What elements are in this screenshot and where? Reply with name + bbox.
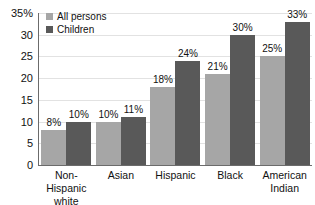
bar	[175, 61, 200, 165]
y-axis-tick-label: 35%	[11, 8, 33, 18]
bar-column: 21%	[205, 13, 230, 165]
bar-value-label: 10%	[69, 110, 89, 120]
bar-value-label: 25%	[262, 44, 282, 54]
x-axis-category-label: Non-Hispanicwhite	[39, 167, 94, 205]
bar-column: 30%	[230, 13, 255, 165]
bar-group: 25%33%	[257, 13, 312, 165]
y-axis-tick-label: 25	[21, 51, 33, 61]
bar-group: 21%30%	[203, 13, 258, 165]
bar	[150, 87, 175, 165]
bar	[121, 117, 146, 165]
y-axis: 05101520253035%	[0, 0, 36, 205]
bar-column: 11%	[121, 13, 146, 165]
bar-group: 18%24%	[148, 13, 203, 165]
x-axis-category-label: Asian	[94, 167, 149, 205]
bar-chart: 05101520253035% 8%10%10%11%18%24%21%30%2…	[0, 0, 315, 205]
legend-item-children: Children	[46, 24, 106, 35]
bar-value-label: 24%	[178, 49, 198, 59]
y-axis-tick-label: 15	[21, 95, 33, 105]
bar-value-label: 30%	[233, 23, 253, 33]
bar	[41, 130, 66, 165]
y-axis-tick-label: 10	[21, 117, 33, 127]
legend-swatch-icon-all-persons	[46, 13, 53, 20]
x-axis-labels: Non-HispanicwhiteAsianHispanicBlackAmeri…	[39, 167, 312, 205]
legend-swatch-icon-children	[46, 26, 53, 33]
x-axis-category-label: Black	[203, 167, 258, 205]
bar-value-label: 10%	[98, 110, 118, 120]
bar-value-label: 18%	[153, 75, 173, 85]
bar	[285, 22, 310, 165]
y-axis-tick-label: 0	[27, 160, 33, 170]
bar-column: 25%	[260, 13, 285, 165]
chart-legend: All persons Children	[46, 11, 106, 37]
bar-column: 18%	[150, 13, 175, 165]
bar	[66, 122, 91, 165]
bar	[205, 74, 230, 165]
bar-value-label: 21%	[208, 62, 228, 72]
legend-label-all-persons: All persons	[57, 11, 106, 22]
legend-item-all-persons: All persons	[46, 11, 106, 22]
y-axis-tick-label: 20	[21, 73, 33, 83]
y-axis-tick-label: 5	[27, 138, 33, 148]
bar-column: 33%	[285, 13, 310, 165]
y-axis-tick-label: 30	[21, 30, 33, 40]
bar-value-label: 11%	[124, 105, 143, 115]
bar	[230, 35, 255, 165]
legend-label-children: Children	[57, 24, 94, 35]
bar	[260, 56, 285, 165]
x-axis-category-label: Hispanic	[148, 167, 203, 205]
bar-column: 24%	[175, 13, 200, 165]
bar-value-label: 33%	[287, 10, 307, 20]
bar	[96, 122, 121, 165]
bar-value-label: 8%	[47, 118, 61, 128]
x-axis-category-label: AmericanIndian	[257, 167, 312, 205]
x-axis-line	[38, 165, 312, 166]
